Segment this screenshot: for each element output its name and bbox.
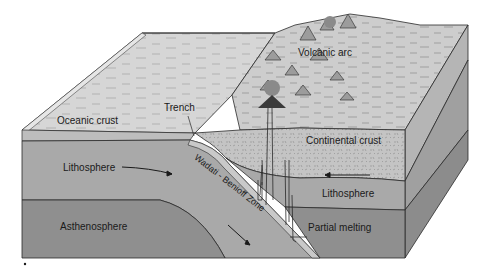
label-trench: Trench — [164, 103, 195, 113]
label-volcanic-arc: Volcanic arc — [298, 48, 352, 58]
label-lithosphere-right: Lithosphere — [322, 189, 374, 199]
label-lithosphere-left: Lithosphere — [63, 163, 115, 173]
label-continental-crust: Continental crust — [306, 136, 381, 146]
label-partial-melting: Partial melting — [308, 223, 371, 233]
label-asthenosphere: Asthenosphere — [60, 222, 127, 232]
label-oceanic-crust: Oceanic crust — [57, 116, 118, 126]
volcano-plume-front — [264, 80, 280, 96]
volcano-plume-back — [324, 16, 336, 28]
